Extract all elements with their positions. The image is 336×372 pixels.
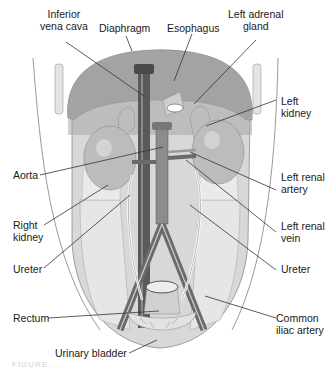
rib-left: [55, 64, 63, 114]
right-kidney: [84, 126, 136, 190]
label-left-renal-artery: Left renal artery: [281, 171, 325, 195]
left-kidney: [192, 120, 244, 184]
label-left-adrenal-gland: Left adrenal gland: [228, 8, 283, 32]
label-ureter-left-side: Ureter: [281, 263, 310, 275]
aorta: [156, 124, 168, 224]
label-right-kidney: Right kidney: [13, 219, 43, 243]
left-renal-vein: [168, 156, 196, 158]
label-ureter-right-side: Ureter: [13, 263, 42, 275]
label-common-iliac-artery: Common iliac artery: [276, 312, 324, 336]
label-urinary-bladder: Urinary bladder: [55, 347, 127, 359]
figure-caption: FIGURE ...: [12, 360, 61, 369]
label-left-renal-vein: Left renal vein: [281, 220, 325, 244]
rib-right: [253, 64, 261, 114]
label-left-kidney: Left kidney: [281, 95, 311, 119]
label-diaphragm: Diaphragm: [99, 22, 150, 34]
label-esophagus: Esophagus: [167, 22, 220, 34]
label-aorta: Aorta: [13, 169, 38, 181]
label-rectum: Rectum: [13, 312, 49, 324]
label-inferior-vena-cava: Inferior vena cava: [40, 8, 88, 32]
